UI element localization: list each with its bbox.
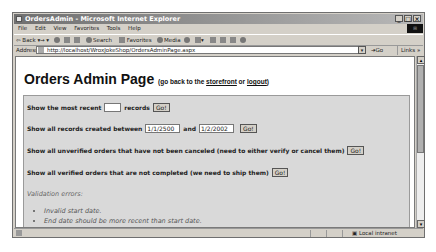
status-divider (326, 230, 327, 237)
status-divider (310, 230, 311, 237)
unverified-row: Show all unverified orders that have not… (27, 146, 364, 155)
subtitle-prefix: (go back to the (158, 78, 206, 85)
windows-logo-icon: ⊞ (407, 24, 423, 33)
page-subtitle: (go back to the storefront or logout) (158, 78, 269, 85)
discuss-button[interactable] (230, 35, 236, 45)
subtitle-or: or (237, 78, 247, 85)
unverified-go-button[interactable]: Go! (347, 146, 364, 155)
back-label: Back (22, 37, 35, 43)
page-icon (38, 47, 44, 53)
validation-error: Invalid start date. (44, 206, 202, 216)
menu-edit[interactable]: Edit (35, 25, 46, 31)
storefront-link[interactable]: storefront (206, 78, 237, 85)
close-button[interactable]: × (413, 15, 421, 22)
zone-label: Local intranet (359, 230, 397, 236)
address-dropdown[interactable]: ▾ (358, 46, 366, 54)
scroll-thumb[interactable] (417, 65, 424, 153)
scroll-up-button[interactable]: ▴ (417, 56, 425, 64)
search-icon (86, 37, 92, 43)
scroll-down-button[interactable]: ▾ (417, 220, 425, 228)
subtitle-suffix: ) (267, 78, 269, 85)
recent-records-row: Show the most recent records Go! (27, 103, 170, 112)
validation-errors: Invalid start date. End date should be m… (34, 206, 202, 226)
browser-window: OrdersAdmin - Microsoft Internet Explore… (12, 12, 425, 238)
verified-go-button[interactable]: Go! (272, 168, 289, 177)
and-label: and (183, 125, 196, 132)
discuss-icon (230, 37, 236, 43)
search-label: Search (93, 37, 112, 43)
start-date-input[interactable]: 1/1/2500 (145, 124, 180, 133)
menu-help[interactable]: Help (128, 25, 141, 31)
go-button[interactable]: ➔Go (371, 45, 383, 55)
stop-button[interactable] (54, 35, 61, 45)
page-content: Orders Admin Page (go back to the storef… (15, 56, 415, 228)
menu-favorites[interactable]: Favorites (74, 25, 99, 31)
validation-heading: Validation errors: (27, 190, 83, 198)
favorites-label: Favorites (127, 37, 152, 43)
page-title-text: Orders Admin Page (24, 71, 154, 87)
verified-row: Show all verified orders that are not co… (27, 168, 288, 177)
vertical-scrollbar[interactable]: ▴ ▾ (416, 56, 424, 228)
favorites-button[interactable]: Favorites (119, 35, 152, 45)
media-label: Media (164, 37, 181, 43)
menu-file[interactable]: File (18, 25, 27, 31)
home-button[interactable] (74, 35, 80, 45)
edit-button[interactable] (220, 35, 226, 45)
title-bar[interactable]: OrdersAdmin - Microsoft Internet Explore… (14, 14, 423, 24)
messenger-button[interactable] (240, 35, 247, 45)
unverified-label: Show all unverified orders that have not… (27, 147, 344, 154)
address-input[interactable]: http://localhost/WroxJokeShop/OrdersAdmi… (36, 46, 366, 54)
logout-link[interactable]: logout (247, 78, 267, 85)
home-icon (74, 37, 80, 43)
favorites-icon (119, 37, 125, 43)
date-range-row: Show all records created between 1/1/250… (27, 124, 257, 133)
address-label: Address (16, 45, 38, 55)
status-bar: ▣ Local intranet (14, 228, 423, 238)
recent-label: Show the most recent (27, 104, 101, 111)
maximize-button[interactable]: □ (404, 15, 412, 22)
address-url: http://localhost/WroxJokeShop/OrdersAdmi… (47, 47, 195, 53)
menu-tools[interactable]: Tools (107, 25, 121, 31)
mail-icon (195, 37, 201, 43)
media-icon (157, 37, 163, 43)
address-bar: Address http://localhost/WroxJokeShop/Or… (14, 45, 423, 55)
stop-icon (54, 37, 60, 43)
media-button[interactable]: Media (157, 35, 181, 45)
print-button[interactable] (210, 35, 216, 45)
records-label: records (124, 104, 150, 111)
menu-view[interactable]: View (53, 25, 66, 31)
mail-button[interactable]: ▾ (195, 35, 204, 45)
minimize-button[interactable]: _ (395, 15, 403, 22)
forward-button[interactable]: → ▾ (40, 35, 49, 45)
verified-label: Show all verified orders that are not co… (27, 169, 269, 176)
messenger-icon (240, 37, 246, 43)
date-range-label: Show all records created between (27, 125, 142, 132)
window-title: OrdersAdmin - Microsoft Internet Explore… (25, 14, 180, 24)
date-range-go-button[interactable]: Go! (240, 124, 257, 133)
menu-bar: File Edit View Favorites Tools Help (14, 24, 423, 33)
intranet-icon: ▣ (352, 230, 357, 236)
page-status-icon (16, 230, 22, 236)
recent-go-button[interactable]: Go! (153, 103, 170, 112)
end-date-input[interactable]: 1/2/2002 (199, 124, 234, 133)
history-button[interactable] (184, 35, 191, 45)
admin-panel: Show the most recent records Go! Show al… (23, 95, 410, 228)
validation-error: End date should be more recent than star… (44, 216, 202, 226)
page-title: Orders Admin Page (go back to the storef… (24, 71, 269, 87)
status-divider (342, 230, 343, 237)
forward-icon: → (40, 37, 45, 43)
print-icon (210, 37, 216, 43)
ie-app-icon (16, 16, 22, 22)
security-zone: ▣ Local intranet (352, 229, 397, 238)
back-button[interactable]: ⇦ Back ▾ (16, 35, 40, 45)
edit-icon (220, 37, 226, 43)
refresh-button[interactable] (64, 35, 70, 45)
links-button[interactable]: Links » (397, 45, 420, 55)
go-label: Go (376, 47, 384, 53)
recent-count-input[interactable] (104, 103, 121, 112)
search-button[interactable]: Search (86, 35, 112, 45)
refresh-icon (64, 37, 70, 43)
history-icon (184, 37, 190, 43)
